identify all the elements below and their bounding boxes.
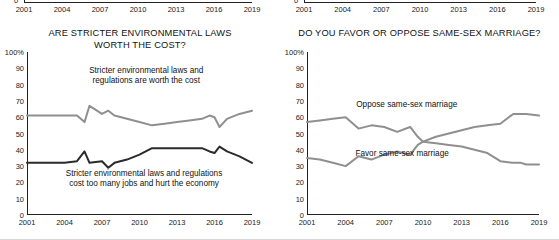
- chart-title-line: ARE STRICTER ENVIRONMENTAL LAWS: [0, 28, 280, 40]
- y-axis-tick-label: 100%: [5, 48, 24, 57]
- y-axis-tick-label: 40: [16, 145, 24, 154]
- cut-off-xtick: 2004: [334, 5, 351, 14]
- x-axis-tick-label: 2001: [19, 218, 36, 227]
- x-axis-tick-label: 2001: [299, 218, 316, 227]
- cut-off-axis-right: 0 2001 2004 2007 2010 2013 2016 2019: [280, 0, 559, 26]
- y-axis-tick-label: 60: [296, 113, 304, 122]
- x-axis-tick-label: 2010: [131, 218, 148, 227]
- cut-off-xtick: 2013: [168, 5, 185, 14]
- y-axis-tick-label: 90: [16, 64, 24, 73]
- annotation-line: Favor same-sex marriage: [355, 149, 448, 159]
- x-axis-tick-label: 2016: [492, 218, 509, 227]
- series-annotation-favor: Favor same-sex marriage: [355, 149, 448, 159]
- chart-panel-environmental-laws: ARE STRICTER ENVIRONMENTAL LAWS WORTH TH…: [0, 26, 280, 240]
- y-axis-tick-label: 20: [296, 178, 304, 187]
- y-axis-tick-label: 100%: [285, 48, 304, 57]
- cut-off-x-axis-left: [24, 2, 252, 3]
- y-axis-tick-label: 30: [296, 162, 304, 171]
- x-axis-tick-label: 2004: [337, 218, 354, 227]
- y-axis-tick-label: 20: [16, 178, 24, 187]
- x-axis-tick-label: 2013: [453, 218, 470, 227]
- y-axis-tick-label: 50: [296, 129, 304, 138]
- annotation-line: cost too many jobs and hurt the economy: [66, 179, 223, 189]
- y-axis-tick-label: 70: [16, 96, 24, 105]
- annotation-line: Stricter environmental laws and: [89, 66, 203, 76]
- y-axis-tick-label: 60: [16, 113, 24, 122]
- x-axis-tick-label: 2007: [94, 218, 111, 227]
- y-axis-tick-label: 90: [296, 64, 304, 73]
- y-axis-tick-label: 80: [16, 80, 24, 89]
- cut-off-xtick: 2001: [16, 5, 33, 14]
- chart-title-environmental-laws: ARE STRICTER ENVIRONMENTAL LAWS WORTH TH…: [0, 28, 280, 51]
- cut-off-xtick: 2010: [130, 5, 147, 14]
- annotation-line: Oppose same-sex marriage: [356, 100, 457, 110]
- cut-off-xtick: 2019: [244, 5, 261, 14]
- cut-off-xtick: 2016: [489, 5, 506, 14]
- chart-panel-same-sex-marriage: DO YOU FAVOR OR OPPOSE SAME-SEX MARRIAGE…: [280, 26, 559, 240]
- y-axis-tick-label: 40: [296, 145, 304, 154]
- cut-off-xtick: 2007: [92, 5, 109, 14]
- cut-off-xticks-right: 2001 2004 2007 2010 2013 2016 2019: [304, 5, 536, 17]
- annotation-line: regulations are worth the cost: [89, 76, 203, 86]
- series-lines-same-sex-marriage: [307, 52, 539, 215]
- series-annotation-cost-too-many-jobs: Stricter environmental laws and regulati…: [66, 169, 223, 189]
- cut-off-xtick: 2013: [450, 5, 467, 14]
- y-axis-tick-label: 50: [16, 129, 24, 138]
- x-axis-tick-label: 2007: [376, 218, 393, 227]
- x-axis-tick-label: 2004: [56, 218, 73, 227]
- y-axis-tick-label: 80: [296, 80, 304, 89]
- cut-off-xtick: 2004: [54, 5, 71, 14]
- chart-title-same-sex-marriage: DO YOU FAVOR OR OPPOSE SAME-SEX MARRIAGE…: [280, 28, 559, 40]
- series-line: [27, 106, 252, 127]
- series-line: [27, 147, 252, 168]
- chart-title-line: WORTH THE COST?: [0, 40, 280, 52]
- series-annotation-worth-the-cost: Stricter environmental laws and regulati…: [89, 66, 203, 86]
- y-axis-tick-label: 10: [16, 194, 24, 203]
- y-axis-tick-label: 70: [296, 96, 304, 105]
- cut-off-xtick: 2010: [412, 5, 429, 14]
- annotation-line: Stricter environmental laws and regulati…: [66, 169, 223, 179]
- cut-off-axis-left: 0 2001 2004 2007 2010 2013 2016 2019: [0, 0, 280, 26]
- y-axis-tick-label: 10: [296, 194, 304, 203]
- series-annotation-oppose: Oppose same-sex marriage: [356, 100, 457, 110]
- cut-off-chart-strip: 0 2001 2004 2007 2010 2013 2016 2019 0 2…: [0, 0, 559, 26]
- cut-off-xtick: 2007: [373, 5, 390, 14]
- cut-off-xticks-left: 2001 2004 2007 2010 2013 2016 2019: [24, 5, 252, 17]
- figure-root: 0 2001 2004 2007 2010 2013 2016 2019 0 2…: [0, 0, 559, 240]
- x-axis-tick-label: 2019: [531, 218, 548, 227]
- x-axis-tick-label: 2013: [169, 218, 186, 227]
- cut-off-xtick: 2001: [296, 5, 313, 14]
- x-axis-tick-label: 2016: [206, 218, 223, 227]
- cut-off-xtick: 2019: [528, 5, 545, 14]
- x-axis-tick-label: 2019: [244, 218, 261, 227]
- plot-area-environmental-laws: Stricter environmental laws and regulati…: [27, 52, 252, 215]
- chart-title-line: DO YOU FAVOR OR OPPOSE SAME-SEX MARRIAGE…: [280, 28, 559, 40]
- x-axis-tick-label: 2010: [415, 218, 432, 227]
- y-axis-tick-label: 30: [16, 162, 24, 171]
- cut-off-xtick: 2016: [206, 5, 223, 14]
- plot-area-same-sex-marriage: Oppose same-sex marriage Favor same-sex …: [307, 52, 539, 215]
- cut-off-x-axis-right: [304, 2, 536, 3]
